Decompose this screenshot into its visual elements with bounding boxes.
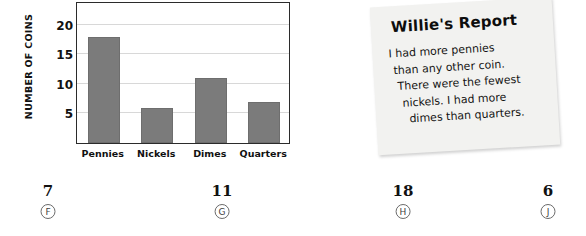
y-tick-label: 10 xyxy=(40,78,73,92)
willies-report-note: Willie's Report I had more penniesthan a… xyxy=(370,0,560,155)
answer-value: 18 xyxy=(393,182,414,200)
plot-area xyxy=(77,3,289,143)
answer-bubble-g[interactable]: G xyxy=(215,204,230,219)
bar-dimes xyxy=(195,78,227,143)
x-tick-label: Quarters xyxy=(240,148,287,159)
x-axis-tick-labels: PenniesNickelsDimesQuarters xyxy=(76,148,290,166)
answer-choice-h[interactable]: 18H xyxy=(393,182,414,219)
answer-choice-f[interactable]: 7F xyxy=(41,182,56,219)
y-axis-tick-labels: 5101520 xyxy=(40,2,73,144)
answer-value: 6 xyxy=(541,182,556,200)
answer-choices: 7F11G18H6J xyxy=(0,182,586,236)
report-body: I had more penniesthan any other coin.Th… xyxy=(388,37,547,128)
bar-quarters xyxy=(248,102,280,143)
bar-nickels xyxy=(141,108,173,144)
bar-chart: NUMBER OF COINS 5101520 PenniesNickelsDi… xyxy=(0,0,310,172)
answer-choice-j[interactable]: 6J xyxy=(541,182,556,219)
x-tick-label: Pennies xyxy=(82,148,124,159)
answer-bubble-h[interactable]: H xyxy=(396,204,411,219)
x-tick-label: Nickels xyxy=(137,148,175,159)
y-tick-label: 5 xyxy=(40,107,73,121)
answer-value: 7 xyxy=(41,182,56,200)
y-tick-label: 15 xyxy=(40,48,73,62)
answer-bubble-f[interactable]: F xyxy=(41,204,56,219)
report-title: Willie's Report xyxy=(390,9,541,36)
x-tick-label: Dimes xyxy=(193,148,226,159)
answer-value: 11 xyxy=(212,182,233,200)
y-tick-label: 20 xyxy=(40,19,73,33)
gridline xyxy=(77,24,289,25)
bar-pennies xyxy=(88,37,120,144)
answer-bubble-j[interactable]: J xyxy=(541,204,556,219)
plot-frame xyxy=(76,2,290,144)
y-axis-title: NUMBER OF COINS xyxy=(23,2,34,132)
answer-choice-g[interactable]: 11G xyxy=(212,182,233,219)
